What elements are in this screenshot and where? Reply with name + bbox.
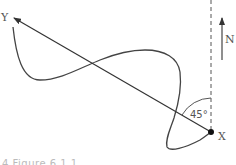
figure-caption: 4 Figure 6.1.1 [2,158,78,165]
label-north: N [225,33,235,46]
label-angle: 45° [190,109,208,120]
winding-path-curve [13,27,210,149]
displacement-diagram: Y X N 45° [0,0,236,165]
displacement-arrow [14,18,211,132]
label-x: X [218,130,226,143]
point-x-dot [208,129,214,135]
label-y: Y [0,11,9,24]
